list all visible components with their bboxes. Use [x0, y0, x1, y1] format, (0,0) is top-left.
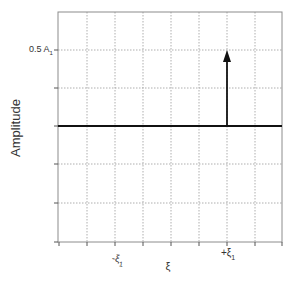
arrowhead-icon	[223, 50, 231, 62]
x-axis-title: ξ	[166, 260, 171, 272]
ytick-label-0-5-a1: 0.5 A1	[29, 44, 54, 56]
x-axis-ticks	[59, 242, 282, 246]
xtick-label-pos-xi1: +ξ1	[221, 247, 235, 261]
y-axis-ticks	[54, 50, 58, 242]
impulse-chart: 0.5 A1 -ξ1 +ξ1 ξ Amplitude	[0, 0, 297, 289]
xtick-label-neg-xi1: -ξ1	[111, 252, 125, 268]
y-axis-title: Amplitude	[8, 99, 23, 157]
